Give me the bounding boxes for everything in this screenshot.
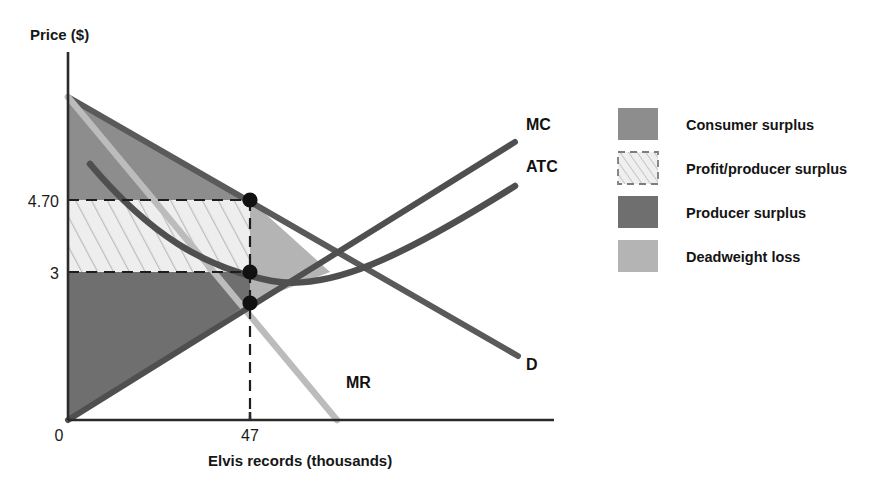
legend-item-profit-producer-surplus: Profit/producer surplus [618,152,847,184]
legend-label-deadweight-loss: Deadweight loss [686,249,800,265]
legend-label-profit-producer-surplus: Profit/producer surplus [686,161,847,177]
legend-swatch-consumer-surplus [618,108,658,140]
curve-label-mc: MC [526,116,551,133]
monopoly-welfare-chart: Price ($) Elvis records (thousands) 4.70… [0,0,889,481]
curve-label-mr: MR [346,374,371,391]
y-tick-label-3: 3 [50,265,59,282]
y-tick-label-470: 4.70 [28,193,59,210]
x-axis-title: Elvis records (thousands) [208,452,392,469]
point-average-total-cost [242,264,257,279]
legend-item-producer-surplus: Producer surplus [618,196,806,228]
legend-label-producer-surplus: Producer surplus [686,205,806,221]
origin-label: 0 [55,427,64,444]
legend-item-deadweight-loss: Deadweight loss [618,240,800,272]
curve-label-atc: ATC [526,158,558,175]
point-mr-equals-mc [242,295,257,310]
y-axis-title: Price ($) [30,26,89,43]
x-tick-label-47: 47 [241,427,259,444]
point-monopoly-price [242,192,257,207]
legend: Consumer surplus Profit/producer surplus… [618,108,847,272]
legend-item-consumer-surplus: Consumer surplus [618,108,814,140]
legend-swatch-deadweight-loss [618,240,658,272]
chart-canvas: Price ($) Elvis records (thousands) 4.70… [0,0,889,481]
legend-label-consumer-surplus: Consumer surplus [686,117,814,133]
legend-swatch-profit-producer-surplus [618,152,658,184]
curve-label-d: D [526,356,538,373]
legend-swatch-producer-surplus [618,196,658,228]
region-producer-surplus [68,272,250,420]
